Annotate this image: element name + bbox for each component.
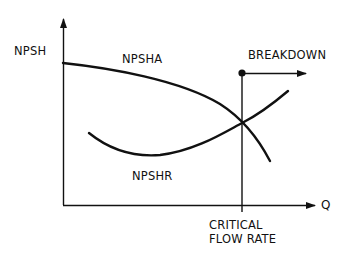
npsha-label: NPSHA — [122, 53, 162, 66]
diagram-graphics — [0, 0, 344, 258]
breakdown-label: BREAKDOWN — [248, 49, 326, 62]
critical-flow-rate-label: CRITICAL FLOW RATE — [209, 218, 276, 246]
npsha-curve — [63, 63, 270, 161]
critical-label-line2: FLOW RATE — [209, 232, 276, 246]
npsh-diagram: NPSH NPSHA NPSHR BREAKDOWN Q CRITICAL FL… — [0, 0, 344, 258]
y-axis-label: NPSH — [14, 45, 46, 58]
npshr-label: NPSHR — [132, 170, 172, 183]
x-axis-label: Q — [321, 199, 331, 212]
critical-label-line1: CRITICAL — [209, 218, 276, 232]
npshr-curve — [89, 91, 288, 155]
